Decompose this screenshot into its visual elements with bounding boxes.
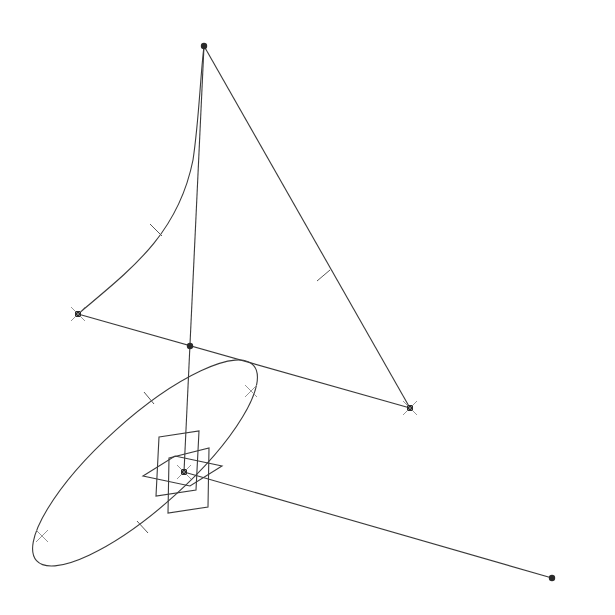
reference-plane-right[interactable] [168,448,209,513]
vertical-axis-line[interactable] [184,46,204,472]
intersection-point[interactable] [187,343,193,349]
wireframe-drawing [0,0,615,615]
horizontal-axis-line[interactable] [184,472,552,578]
ellipse-curve[interactable] [7,333,283,594]
edge-apex-right-tick [317,270,330,281]
edge-left-right[interactable] [78,314,410,408]
spline-curve[interactable] [78,46,204,314]
apex-point[interactable] [201,43,207,49]
ellipse-quadrant-marker-left [36,530,48,542]
spline-midpoint-tick [150,224,162,236]
cad-viewport[interactable] [0,0,615,615]
edge-apex-right[interactable] [204,46,410,408]
left-vertex-point[interactable] [71,307,85,321]
axis-end-point[interactable] [549,575,555,581]
right-vertex-point[interactable] [403,401,417,415]
